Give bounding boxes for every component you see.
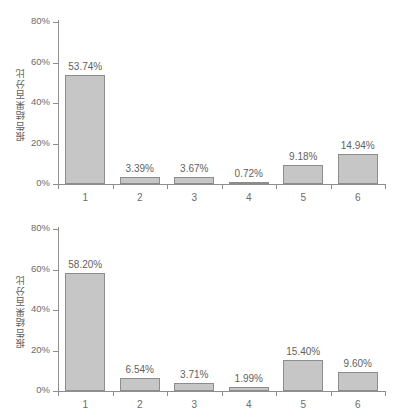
x-axis-tick-top [222,184,223,189]
x-axis-tick-label-bottom: 2 [128,399,152,410]
x-axis-tick-label-top: 1 [73,192,97,203]
bar [338,154,378,184]
y-axis-tick-label-bottom: 0% [36,384,50,395]
y-axis-tick-bottom: 40% [53,310,58,311]
y-axis-tick-label-top: 20% [31,137,50,148]
y-axis-tick-label-top: 80% [31,15,50,26]
bar-value-label: 6.54% [126,364,154,375]
y-axis-tick-label-top: 0% [36,177,50,188]
y-axis-tick-label-bottom: 60% [31,263,50,274]
x-axis-tick-label-top: 4 [237,192,261,203]
bar [338,372,378,391]
bar-value-label: 53.74% [68,61,102,72]
bar [174,177,214,184]
y-axis-title-bottom: 报告结果百分比 [13,245,29,377]
y-axis-title-top: 报告结果百分比 [13,38,29,170]
y-axis-tick-top: 40% [53,103,58,104]
bar-value-label: 15.40% [286,346,320,357]
y-axis-tick-top: 20% [53,144,58,145]
x-axis-tick-label-top: 3 [182,192,206,203]
bar-value-label: 3.71% [180,369,208,380]
bar-value-label: 0.72% [235,168,263,179]
bar [229,387,269,391]
bar [283,165,323,184]
bar [174,383,214,391]
bar-value-label: 3.67% [180,163,208,174]
x-axis-tick-top [113,184,114,189]
bar-value-label: 14.94% [341,140,375,151]
x-axis-tick-label-top: 6 [346,192,370,203]
x-axis-tick-bottom [276,391,277,396]
bar-value-label: 58.20% [68,259,102,270]
chart-panel-bottom: 报告结果百分比 0%20%40%60%80%58.20%16.54%23.71%… [0,207,398,413]
y-axis-tick-label-bottom: 40% [31,303,50,314]
bar [65,273,105,391]
x-axis-tick-label-bottom: 1 [73,399,97,410]
x-axis-tick-label-bottom: 3 [182,399,206,410]
bar-value-label: 3.39% [126,163,154,174]
x-axis-tick-bottom [331,391,332,396]
bar-value-label: 9.60% [344,358,372,369]
y-axis-tick-top: 60% [53,63,58,64]
x-axis-tick-bottom [58,391,59,396]
plot-area-bottom: 0%20%40%60%80%58.20%16.54%23.71%31.99%41… [58,229,385,391]
plot-area-top: 0%20%40%60%80%53.74%13.39%23.67%30.72%49… [58,22,385,184]
x-axis-tick-bottom [222,391,223,396]
x-axis-tick-label-top: 5 [291,192,315,203]
bar [120,378,160,391]
chart-panel-top: 报告结果百分比 0%20%40%60%80%53.74%13.39%23.67%… [0,0,398,206]
bar [65,75,105,184]
x-axis-tick-top [58,184,59,189]
bar-chart-figure: 报告结果百分比 0%20%40%60%80%53.74%13.39%23.67%… [0,0,398,413]
y-axis-tick-label-bottom: 20% [31,344,50,355]
x-axis-tick-label-top: 2 [128,192,152,203]
x-axis-tick-label-bottom: 6 [346,399,370,410]
x-axis-tick-top [385,184,386,189]
x-axis-tick-bottom [167,391,168,396]
y-axis-tick-label-top: 40% [31,96,50,107]
bar [229,182,269,184]
y-axis-tick-top: 80% [53,22,58,23]
bar-value-label: 9.18% [289,151,317,162]
x-axis-tick-bottom [113,391,114,396]
x-axis-tick-label-bottom: 5 [291,399,315,410]
y-axis-tick-bottom: 20% [53,351,58,352]
bar [283,360,323,391]
bar-value-label: 1.99% [235,373,263,384]
y-axis-spine-bottom [58,227,59,393]
x-axis-tick-top [276,184,277,189]
y-axis-tick-label-top: 60% [31,56,50,67]
y-axis-tick-bottom: 60% [53,270,58,271]
x-axis-tick-top [331,184,332,189]
y-axis-tick-label-bottom: 80% [31,222,50,233]
x-axis-tick-bottom [385,391,386,396]
y-axis-tick-bottom: 80% [53,229,58,230]
x-axis-tick-label-bottom: 4 [237,399,261,410]
y-axis-spine-top [58,20,59,186]
bar [120,177,160,184]
x-axis-tick-top [167,184,168,189]
